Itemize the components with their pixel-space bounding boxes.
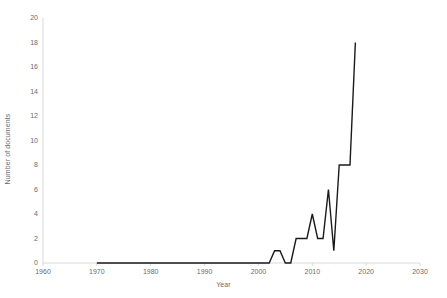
- line-chart: Number of documents Year 024681012141618…: [0, 0, 447, 298]
- plot-area: [0, 0, 447, 298]
- axis-lines: [43, 18, 420, 263]
- data-series-line: [97, 43, 356, 264]
